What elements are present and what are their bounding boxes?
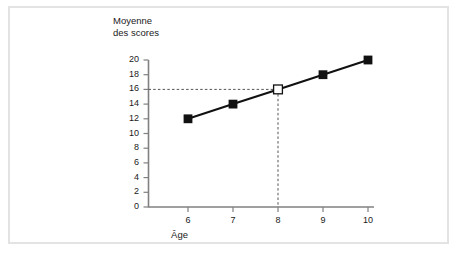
data-point-marker <box>184 114 193 123</box>
y-tick-label: 14 <box>117 98 139 108</box>
x-tick-label: 8 <box>267 215 289 225</box>
highlight-point-marker <box>274 85 283 94</box>
y-tick-label: 4 <box>117 172 139 182</box>
y-tick-label: 8 <box>117 142 139 152</box>
y-tick-label: 6 <box>117 157 139 167</box>
data-point-marker <box>364 56 373 65</box>
y-axis-title-line1: Moyenne <box>113 15 159 27</box>
x-axis-title: Âge <box>0 229 409 241</box>
data-point-marker <box>319 70 328 79</box>
figure-caption <box>0 260 459 269</box>
y-tick-label: 18 <box>117 69 139 79</box>
x-tick-label: 10 <box>357 215 379 225</box>
y-tick-label: 20 <box>117 54 139 64</box>
y-tick-label: 12 <box>117 113 139 123</box>
x-tick-label: 7 <box>222 215 244 225</box>
x-tick-label: 6 <box>177 215 199 225</box>
y-axis-title: Moyenne des scores <box>113 15 159 38</box>
x-tick-label: 9 <box>312 215 334 225</box>
y-axis-title-line2: des scores <box>113 27 159 39</box>
y-tick-label: 0 <box>117 201 139 211</box>
y-tick-label: 10 <box>117 128 139 138</box>
data-point-marker <box>229 100 238 109</box>
y-tick-label: 2 <box>117 186 139 196</box>
y-tick-label: 16 <box>117 83 139 93</box>
